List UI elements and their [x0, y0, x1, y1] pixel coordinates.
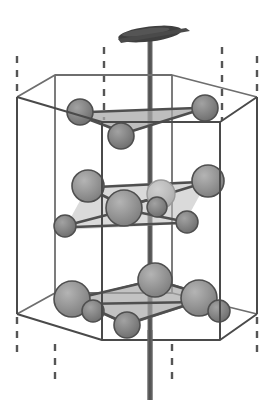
crystal-structure-figure: Hexagonal unit cell crystal structure [0, 0, 274, 411]
atom-bot-back [138, 263, 172, 297]
atom-mid-back-left [72, 170, 104, 202]
atom-mid-front-left [54, 215, 76, 237]
atom-bot-left-small [82, 300, 104, 322]
atom-mid-overlap [147, 197, 167, 217]
c-axis-rod-front [148, 330, 153, 400]
atom-bot-front [114, 312, 140, 338]
atom-top-front [108, 123, 134, 149]
atom-top-right [192, 95, 218, 121]
atom-mid-center [106, 190, 142, 226]
atom-mid-front-right [176, 211, 198, 233]
crystal-structure-canvas [0, 0, 274, 411]
